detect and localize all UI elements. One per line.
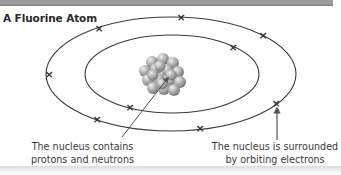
bottom-rule — [0, 166, 341, 175]
nucleus — [139, 53, 186, 96]
electrons-caption: The nucleus is surrounded by orbiting el… — [211, 140, 339, 166]
electron-icon: × — [271, 97, 280, 110]
electron-icon: × — [92, 113, 101, 126]
electrons-caption-line2: by orbiting electrons — [211, 153, 339, 166]
electron-icon: × — [94, 22, 103, 35]
electron-icon: × — [258, 29, 267, 42]
electron-icon: × — [195, 122, 204, 135]
electron-icon: × — [125, 101, 134, 114]
nucleus-caption-line1: The nucleus contains — [30, 140, 135, 153]
electron-icon: × — [44, 68, 53, 81]
nucleus-caption-line2: protons and neutrons — [30, 153, 135, 166]
nucleus-caption: The nucleus contains protons and neutron… — [30, 140, 135, 166]
electrons-caption-line1: The nucleus is surrounded — [211, 140, 339, 153]
electron-icon: × — [228, 41, 237, 54]
electron-icon: × — [176, 11, 185, 24]
